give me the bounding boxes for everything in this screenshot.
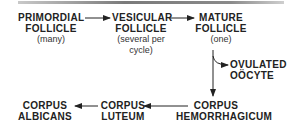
node-label: PRIMORDIAL <box>18 12 84 23</box>
node-label: CORPUS <box>18 100 72 111</box>
node-mature-follicle: MATURE FOLLICLE (one) <box>193 12 249 45</box>
node-corpus-luteum: CORPUS LUTEUM <box>100 100 146 122</box>
node-label: OVULATED <box>230 59 290 70</box>
node-note: (many) <box>18 34 84 45</box>
node-label: OÖCYTE <box>230 70 290 81</box>
node-label: MATURE <box>193 12 249 23</box>
node-label: VESICULAR <box>112 12 170 23</box>
node-label: LUTEUM <box>100 111 146 122</box>
node-label: FOLLICLE <box>112 23 170 34</box>
node-note: cycle) <box>112 45 170 56</box>
node-note: (one) <box>193 34 249 45</box>
node-label: FOLLICLE <box>193 23 249 34</box>
arrow-mature-to-ovulated <box>213 56 228 65</box>
node-label: HEMORRHAGICUM <box>176 111 256 122</box>
node-corpus-albicans: CORPUS ALBICANS <box>18 100 72 122</box>
node-note: (several per <box>112 34 170 45</box>
node-label: CORPUS <box>176 100 256 111</box>
node-vesicular-follicle: VESICULAR FOLLICLE (several per cycle) <box>112 12 170 56</box>
node-label: FOLLICLE <box>18 23 84 34</box>
node-primordial-follicle: PRIMORDIAL FOLLICLE (many) <box>18 12 84 45</box>
node-label: ALBICANS <box>18 111 72 122</box>
node-corpus-hemorrhagicum: CORPUS HEMORRHAGICUM <box>176 100 256 122</box>
node-ovulated-oocyte: OVULATED OÖCYTE <box>230 59 290 81</box>
node-label: CORPUS <box>100 100 146 111</box>
